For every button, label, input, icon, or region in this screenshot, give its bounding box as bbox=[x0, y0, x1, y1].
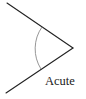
angle-label: Acute bbox=[45, 74, 75, 88]
upper-ray bbox=[7, 3, 73, 48]
acute-angle-diagram: Acute bbox=[0, 0, 86, 99]
angle-arc bbox=[35, 27, 42, 69]
